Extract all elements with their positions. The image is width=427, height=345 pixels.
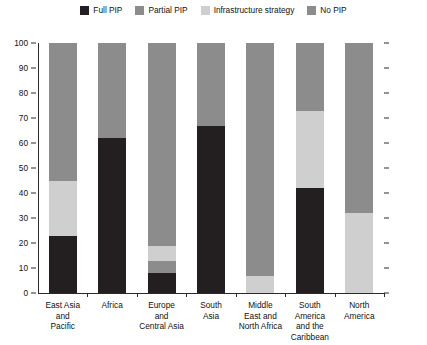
x-axis-ticks [38, 293, 384, 297]
y-axis-tick: 10 [6, 264, 36, 273]
x-axis-tick-mark [285, 293, 286, 297]
y-axis-tick-right [384, 68, 406, 69]
x-axis-label-line: America [282, 311, 338, 322]
bar-group[interactable] [345, 43, 373, 293]
y-axis-tick-mark-right [384, 93, 389, 94]
x-axis-label-line: Central Asia [134, 321, 190, 332]
bar-segment[interactable] [296, 188, 324, 293]
legend-full-pip[interactable]: Full PIP [80, 6, 122, 15]
y-axis-tick-mark-right [384, 168, 389, 169]
y-axis-tick: 30 [6, 214, 36, 223]
x-axis-label-line: Europe [134, 300, 190, 311]
bar-segment[interactable] [197, 43, 225, 126]
y-axis-tick-mark-right [384, 118, 389, 119]
y-axis-tick-mark [31, 218, 36, 219]
y-axis-tick-label: 70 [6, 114, 28, 123]
x-axis-label-line: America [331, 311, 387, 322]
y-axis: 1009080706050403020100 [0, 43, 36, 294]
y-axis-tick-label: 80 [6, 89, 28, 98]
x-axis-label-line: North [331, 300, 387, 311]
legend-partial-pip[interactable]: Partial PIP [135, 6, 187, 15]
y-axis-tick: 80 [6, 89, 36, 98]
bar-segment[interactable] [98, 43, 126, 138]
bar-group[interactable] [148, 43, 176, 293]
x-axis-tick-mark [87, 293, 88, 297]
bar-segment[interactable] [148, 246, 176, 261]
bar-segment[interactable] [49, 236, 77, 294]
y-axis-tick: 90 [6, 64, 36, 73]
y-axis-tick-label: 60 [6, 139, 28, 148]
y-axis-tick-mark [31, 293, 36, 294]
x-axis-label-line: Asia [183, 311, 239, 322]
bar-group[interactable] [49, 43, 77, 293]
y-axis-tick: 40 [6, 189, 36, 198]
bar-segment[interactable] [148, 261, 176, 274]
bar-segment[interactable] [246, 43, 274, 276]
y-axis-tick-mark [31, 118, 36, 119]
legend-infrastructure-strategy[interactable]: Infrastructure strategy [201, 6, 295, 15]
y-axis-tick: 0 [6, 289, 36, 298]
bar-group[interactable] [197, 43, 225, 293]
bar-segment[interactable] [296, 111, 324, 189]
y-axis-tick-label: 50 [6, 164, 28, 173]
y-axis-right-ticks [384, 43, 406, 294]
bar-series-area [38, 43, 384, 293]
y-axis-tick: 60 [6, 139, 36, 148]
x-axis-tick-mark [384, 293, 385, 297]
x-axis-tick-mark [236, 293, 237, 297]
y-axis-tick-label: 10 [6, 264, 28, 273]
chart-legend: Full PIPPartial PIPInfrastructure strate… [0, 6, 427, 15]
x-axis-tick-mark [137, 293, 138, 297]
y-axis-tick-mark [31, 93, 36, 94]
bar-group[interactable] [246, 43, 274, 293]
y-axis-tick-label: 0 [6, 289, 28, 298]
bar-segment[interactable] [246, 276, 274, 294]
bar-segment[interactable] [148, 43, 176, 246]
y-axis-tick-right [384, 43, 406, 44]
bar-segment[interactable] [49, 43, 77, 181]
y-axis-tick-mark [31, 268, 36, 269]
y-axis-tick-mark-right [384, 243, 389, 244]
bar-group[interactable] [296, 43, 324, 293]
y-axis-tick-label: 40 [6, 189, 28, 198]
bar-segment[interactable] [197, 126, 225, 294]
y-axis-tick-mark-right [384, 193, 389, 194]
x-axis-label: NorthAmerica [331, 300, 387, 321]
legend-swatch-icon [135, 6, 144, 15]
y-axis-tick-mark-right [384, 143, 389, 144]
legend-label: Infrastructure strategy [214, 6, 295, 15]
x-axis-label-line: and [35, 311, 91, 322]
y-axis-tick-mark [31, 243, 36, 244]
x-axis-label: SouthAmericaand theCaribbean [282, 300, 338, 342]
bar-segment[interactable] [296, 43, 324, 111]
y-axis-tick-right [384, 118, 406, 119]
bar-segment[interactable] [49, 181, 77, 236]
legend-swatch-icon [307, 6, 316, 15]
bar-group[interactable] [98, 43, 126, 293]
x-axis-label-line: Africa [84, 300, 140, 311]
legend-no-pip[interactable]: No PIP [307, 6, 346, 15]
y-axis-tick-right [384, 193, 406, 194]
y-axis-tick-right [384, 218, 406, 219]
x-axis-label-line: East Asia [35, 300, 91, 311]
y-axis-tick-label: 30 [6, 214, 28, 223]
y-axis-tick-right [384, 93, 406, 94]
bar-segment[interactable] [345, 213, 373, 293]
bar-segment[interactable] [98, 138, 126, 293]
x-axis-label: MiddleEast andNorth Africa [232, 300, 288, 332]
bar-segment[interactable] [148, 273, 176, 293]
y-axis-tick-label: 90 [6, 64, 28, 73]
y-axis-tick: 70 [6, 114, 36, 123]
y-axis-tick-mark-right [384, 68, 389, 69]
legend-swatch-icon [80, 6, 89, 15]
y-axis-tick-mark [31, 68, 36, 69]
x-axis-labels: East AsiaandPacificAfricaEuropeandCentra… [38, 300, 384, 345]
bar-segment[interactable] [345, 43, 373, 213]
y-axis-tick-mark [31, 168, 36, 169]
x-axis-label-line: and the [282, 321, 338, 332]
legend-label: No PIP [320, 6, 346, 15]
y-axis-tick-right [384, 268, 406, 269]
x-axis-label-line: North Africa [232, 321, 288, 332]
x-axis-label: SouthAsia [183, 300, 239, 321]
x-axis-tick-mark [186, 293, 187, 297]
